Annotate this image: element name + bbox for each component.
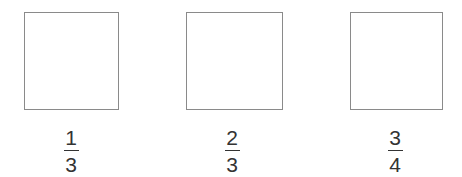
worksheet-figure: 1 3 2 3 3 4: [0, 0, 462, 177]
fraction-numerator-3: 3: [387, 127, 403, 149]
fraction-denominator-3: 4: [387, 153, 403, 175]
fraction-denominator-1: 3: [63, 153, 79, 175]
fraction-label-2: 2 3: [208, 127, 256, 175]
fraction-numerator-1: 1: [63, 127, 79, 149]
fraction-bar-1: [64, 150, 79, 151]
fraction-numerator-2: 2: [224, 127, 240, 149]
square-shape-1: [24, 12, 119, 110]
fraction-denominator-2: 3: [224, 153, 240, 175]
fraction-bar-3: [388, 150, 403, 151]
fraction-bar-2: [225, 150, 240, 151]
square-shape-2: [186, 12, 283, 110]
fraction-label-3: 3 4: [371, 127, 419, 175]
square-shape-3: [350, 12, 443, 110]
fraction-label-1: 1 3: [47, 127, 95, 175]
